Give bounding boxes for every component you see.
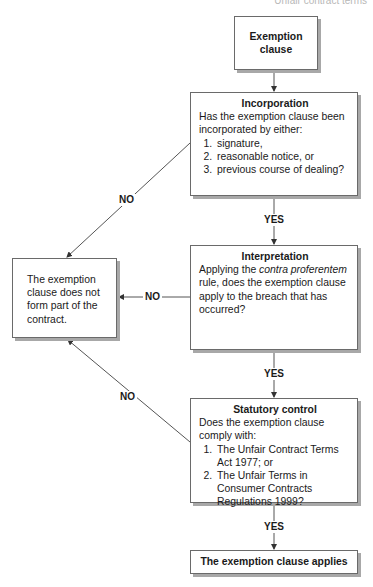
not-part-label: The exemption clause does not form part … — [27, 273, 106, 326]
applies-label: The exemption clause applies — [200, 555, 347, 568]
statutory-control-options: The Unfair Contract Terms Act 1977; or T… — [199, 443, 351, 509]
statutory-control-title: Statutory control — [199, 403, 351, 416]
not-part-of-contract-node: The exemption clause does not form part … — [12, 258, 117, 338]
interpretation-yes-label: YES — [262, 368, 286, 380]
statutory-option-ucta: The Unfair Contract Terms Act 1977; or — [215, 443, 351, 469]
incorporation-options: signature, reasonable notice, or previou… — [199, 137, 351, 177]
incorporation-title: Incorporation — [199, 97, 351, 110]
statutory-no-label: NO — [118, 391, 137, 403]
start-node-exemption-clause: Exemption clause — [234, 16, 318, 70]
statutory-control-question: Does the exemption clause comply with: — [199, 416, 351, 442]
exemption-applies-node: The exemption clause applies — [190, 550, 358, 574]
statutory-option-utccr: The Unfair Terms in Consumer Contracts R… — [215, 469, 351, 509]
incorporation-option-signature: signature, — [215, 137, 351, 150]
interpretation-node: Interpretation Applying the contra profe… — [190, 245, 358, 350]
incorporation-no-label: NO — [117, 194, 136, 206]
incorporation-question: Has the exemption clause been incorporat… — [199, 110, 351, 136]
interpretation-question: Applying the contra proferentem rule, do… — [199, 263, 351, 316]
incorporation-option-reasonable-notice: reasonable notice, or — [215, 150, 351, 163]
interpretation-question-suffix: rule, does the exemption clause apply to… — [199, 277, 346, 314]
incorporation-option-course-of-dealing: previous course of dealing? — [215, 163, 351, 176]
incorporation-node: Incorporation Has the exemption clause b… — [190, 92, 358, 196]
statutory-yes-label: YES — [262, 521, 286, 533]
interpretation-title: Interpretation — [199, 250, 351, 263]
interpretation-no-label: NO — [143, 291, 162, 303]
incorporation-yes-label: YES — [262, 214, 286, 226]
start-node-label: Exemption clause — [243, 30, 309, 56]
statutory-control-node: Statutory control Does the exemption cla… — [190, 398, 358, 503]
interpretation-question-prefix: Applying the — [199, 264, 259, 275]
contra-proferentem-term: contra proferentem — [259, 264, 347, 275]
